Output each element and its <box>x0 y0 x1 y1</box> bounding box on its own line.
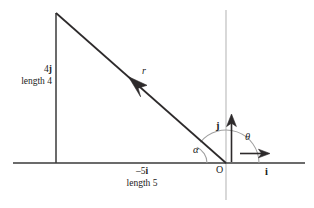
vertical-component-label: 4j <box>6 64 52 76</box>
unit-vector-i-text: i <box>145 166 148 176</box>
horizontal-length-label: length 5 <box>106 178 178 190</box>
alpha-label: α <box>193 144 199 155</box>
vector-diagram-figure: 4j length 4 –5i length 5 r θ α j i O <box>0 0 314 208</box>
basis-j-label: j <box>216 120 220 131</box>
unit-vector-j-text: j <box>49 64 52 74</box>
vertical-length-label: length 4 <box>6 76 52 88</box>
basis-i-label: i <box>265 166 268 177</box>
horizontal-component-label: –5i <box>106 166 178 178</box>
resultant-line <box>56 13 226 163</box>
horizontal-component-label-group: –5i length 5 <box>106 166 178 189</box>
origin-label: O <box>216 165 223 176</box>
resultant-label: r <box>142 66 146 77</box>
resultant-arrowhead <box>129 77 148 97</box>
theta-label: θ <box>245 131 250 142</box>
vertical-component-label-group: 4j length 4 <box>6 64 52 87</box>
theta-arc <box>200 130 259 163</box>
